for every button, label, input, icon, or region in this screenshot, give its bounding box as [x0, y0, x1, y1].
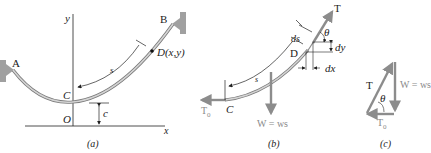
panel-a: [0, 12, 186, 126]
caption-b: (b): [268, 139, 280, 149]
point-b-label: B: [160, 14, 167, 25]
ds-label: ds: [291, 34, 300, 44]
support-a: [0, 60, 6, 82]
point-d-label-b: D: [290, 48, 298, 59]
arc-length-arrow-b: [229, 42, 292, 86]
weight-label-c: W = ws: [400, 80, 431, 90]
arc-length-label-b: s: [255, 76, 258, 84]
tension-label: T: [334, 3, 341, 14]
origin-label: O: [63, 114, 71, 125]
arc-length-label: s: [110, 66, 114, 75]
support-b: [180, 12, 186, 34]
dx-label: dx: [325, 63, 335, 74]
dy-label: dy: [335, 42, 345, 53]
caption-c: (c): [380, 139, 391, 149]
point-d-label: D(x,y): [157, 47, 185, 58]
t0-label: T0: [201, 106, 211, 119]
tension-label-c: T: [366, 80, 373, 91]
offset-c-label: c: [103, 108, 108, 119]
weight-label: W = ws: [257, 119, 288, 129]
theta-label: θ: [324, 27, 329, 38]
arc-length-arrow: [78, 45, 139, 87]
theta-label-c: θ: [380, 93, 385, 104]
t0-label-c: T0: [377, 118, 387, 131]
y-axis-label: y: [65, 13, 70, 24]
cable: [13, 24, 173, 102]
point-c-label-b: C: [226, 104, 233, 115]
point-d: [150, 49, 154, 53]
caption-a: (a): [87, 139, 99, 149]
panel-b: [202, 12, 333, 113]
point-c-label: C: [63, 90, 70, 101]
point-a-label: A: [12, 58, 20, 69]
x-axis-label: x: [164, 126, 168, 136]
